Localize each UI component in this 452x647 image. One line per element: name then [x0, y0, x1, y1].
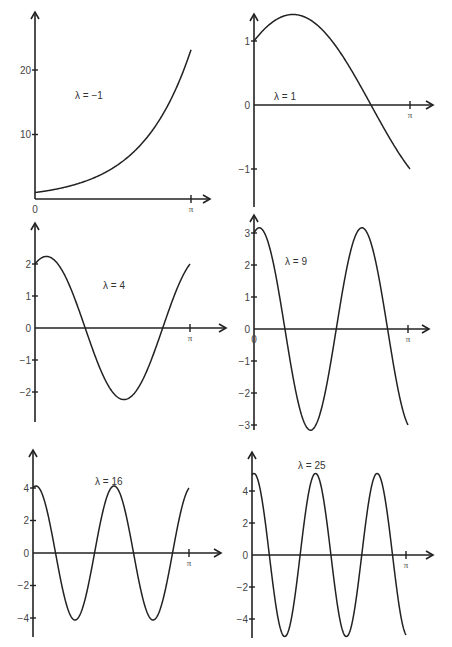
panel-label: λ = 1	[274, 91, 296, 102]
y-tick-label: −3	[239, 420, 251, 431]
y-tick-label: −2	[239, 388, 251, 399]
eigenfunction-figure: π01020λ = −1π10−1λ = 1π210−1−2λ = 4π0321…	[0, 0, 452, 647]
y-tick-label: 20	[20, 65, 32, 76]
panel-label: λ = 16	[95, 476, 123, 487]
panel-lambda-9: π03210−1−2−3λ = 9	[239, 215, 429, 431]
y-tick-label: 0	[23, 548, 29, 559]
panel-lambda-16: π420−2−4λ = 16	[18, 450, 221, 637]
panel-label: λ = 25	[298, 460, 326, 471]
y-tick-label: 2	[25, 259, 31, 270]
panel-lambda-1: π10−1λ = 1	[239, 14, 433, 207]
y-tick-label: −4	[237, 614, 249, 625]
y-tick-label: 1	[25, 291, 31, 302]
y-tick-label: −2	[237, 582, 249, 593]
panel-lambda-neg1: π01020λ = −1	[20, 12, 210, 215]
x-tick-label-pi: π	[408, 110, 413, 120]
y-tick-label: −1	[20, 355, 32, 366]
x-tick-label-0: 0	[251, 334, 257, 345]
y-tick-label: 2	[244, 260, 250, 271]
x-tick-label-pi: π	[404, 560, 409, 570]
y-tick-label: 0	[244, 100, 250, 111]
y-tick-label: −4	[18, 613, 30, 624]
y-tick-label: 4	[242, 486, 248, 497]
y-tick-label: 4	[23, 483, 29, 494]
y-tick-label: −1	[239, 164, 251, 175]
y-tick-label: −2	[18, 580, 30, 591]
panel-lambda-25: π420−2−4λ = 25	[237, 452, 433, 638]
y-tick-label: 0	[244, 324, 250, 335]
x-tick-label-pi: π	[188, 333, 193, 343]
curve-line	[35, 50, 191, 193]
x-tick-label-0: 0	[32, 204, 38, 215]
y-tick-label: 1	[244, 36, 250, 47]
y-tick-label: 0	[25, 323, 31, 334]
panel-label: λ = 9	[285, 256, 307, 267]
y-tick-label: −2	[20, 387, 32, 398]
y-tick-label: 0	[242, 550, 248, 561]
x-tick-label-pi: π	[406, 334, 411, 344]
y-tick-label: 2	[23, 515, 29, 526]
y-tick-label: 2	[242, 518, 248, 529]
panel-label: λ = 4	[103, 280, 125, 291]
x-tick-label-pi: π	[187, 558, 192, 568]
y-tick-label: 3	[244, 228, 250, 239]
y-tick-label: −1	[239, 356, 251, 367]
x-tick-label-pi: π	[189, 204, 194, 214]
y-tick-label: 10	[20, 129, 32, 140]
y-tick-label: 1	[244, 292, 250, 303]
panel-lambda-4: π210−1−2λ = 4	[20, 223, 226, 422]
panel-label: λ = −1	[75, 90, 103, 101]
